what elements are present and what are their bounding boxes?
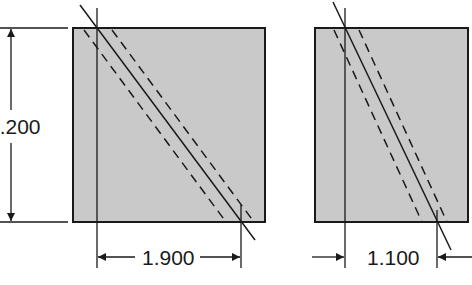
left-panel: 2.200 1.900	[0, 5, 265, 269]
right-width-dimension-label: 1.100	[367, 246, 420, 269]
right-panel: 1.100	[312, 2, 472, 269]
left-width-dimension-label: 1.900	[142, 246, 195, 269]
height-dimension-label: 2.200	[0, 115, 41, 138]
diagram-canvas: 2.200 1.900 1.100	[0, 0, 472, 285]
